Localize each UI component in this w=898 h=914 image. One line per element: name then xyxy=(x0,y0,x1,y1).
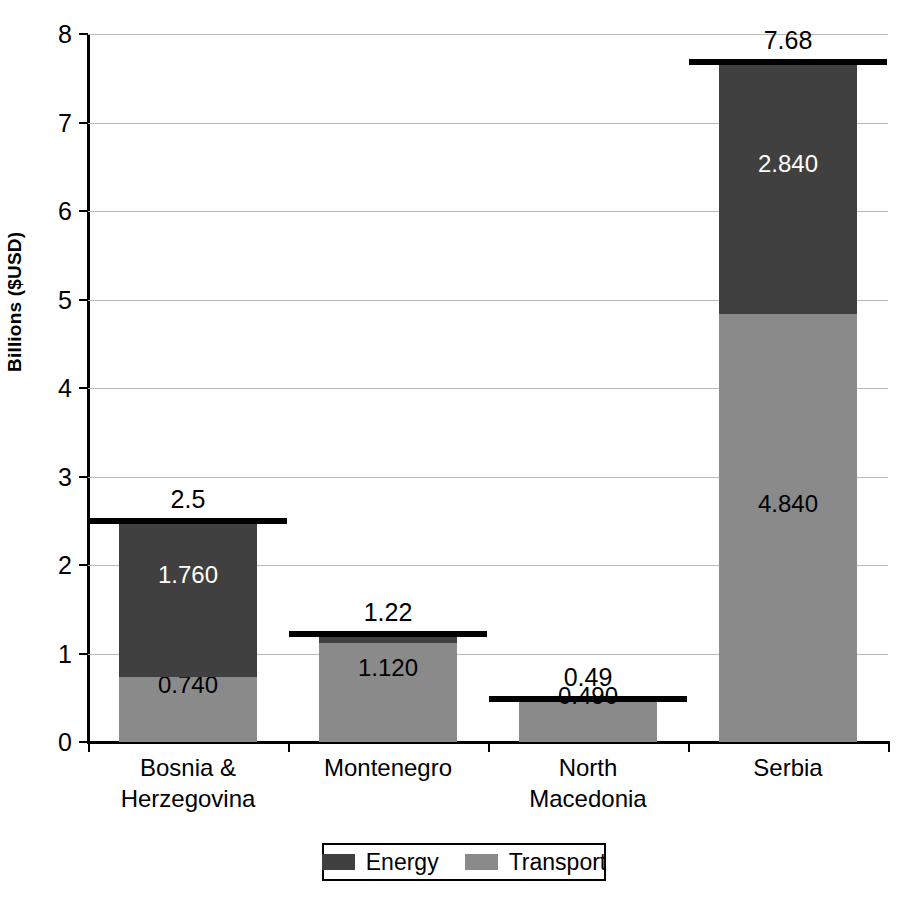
x-axis-category-label: Bosnia &Herzegovina xyxy=(88,752,288,814)
x-axis-label-line: Macedonia xyxy=(488,783,688,814)
y-axis-tick xyxy=(79,122,88,124)
y-axis-tick xyxy=(79,653,88,655)
chart-legend: Energy Transport xyxy=(322,843,606,881)
y-axis-tick xyxy=(79,33,88,35)
bar-segment-value-label: 4.840 xyxy=(719,492,857,516)
y-axis-tick-label: 3 xyxy=(58,464,72,489)
y-axis-title: Billions ($USD) xyxy=(4,232,26,372)
y-axis-tick-label: 7 xyxy=(58,110,72,135)
bar-total-cap-line xyxy=(89,518,287,524)
x-axis-label-line: Serbia xyxy=(688,752,888,783)
y-axis-tick xyxy=(79,210,88,212)
y-axis-tick xyxy=(79,564,88,566)
legend-item-energy: Energy xyxy=(322,851,439,874)
x-axis-label-line: Herzegovina xyxy=(88,783,288,814)
y-axis-tick xyxy=(79,476,88,478)
legend-label-transport: Transport xyxy=(509,851,607,874)
legend-swatch-energy xyxy=(322,854,355,870)
bar-segment-transport[interactable] xyxy=(719,314,857,742)
bar-group[interactable]: 0.490 xyxy=(519,34,657,742)
x-axis-label-line: North xyxy=(488,752,688,783)
bar-segment-value-label: 1.760 xyxy=(119,563,257,587)
bar-segment-energy[interactable] xyxy=(119,521,257,677)
bar-total-cap-line xyxy=(689,59,887,65)
y-axis-tick-label: 2 xyxy=(58,553,72,578)
bar-total-cap-line xyxy=(289,631,487,637)
x-axis-tick xyxy=(888,741,890,752)
bar-segment-value-label: 2.840 xyxy=(719,152,857,176)
bar-total-label: 7.68 xyxy=(719,28,857,53)
legend-item-transport: Transport xyxy=(465,851,607,874)
x-axis-category-label: Montenegro xyxy=(288,752,488,783)
bar-segment-value-label: 0.740 xyxy=(119,673,257,697)
y-axis-tick xyxy=(79,387,88,389)
plot-area: 0123456780.7401.7602.51.1201.220.4900.49… xyxy=(88,34,888,742)
y-axis-tick-label: 1 xyxy=(58,641,72,666)
legend-swatch-transport xyxy=(465,854,498,870)
bar-total-cap-line xyxy=(489,696,687,702)
x-axis-label-line: Montenegro xyxy=(288,752,488,783)
y-axis-tick-label: 4 xyxy=(58,376,72,401)
bar-segment-value-label: 1.120 xyxy=(319,656,457,680)
legend-label-energy: Energy xyxy=(366,851,439,874)
x-axis-tick xyxy=(88,741,90,752)
y-axis-tick-label: 5 xyxy=(58,287,72,312)
y-axis-tick-label: 6 xyxy=(58,199,72,224)
bar-total-label: 0.49 xyxy=(519,665,657,690)
bar-total-label: 2.5 xyxy=(119,487,257,512)
x-axis-tick xyxy=(288,741,290,752)
y-axis-tick-label: 8 xyxy=(58,22,72,47)
x-axis-tick xyxy=(688,741,690,752)
x-axis-category-label: Serbia xyxy=(688,752,888,783)
x-axis-label-line: Bosnia & xyxy=(88,752,288,783)
x-axis-category-label: NorthMacedonia xyxy=(488,752,688,814)
x-axis-tick xyxy=(488,741,490,752)
y-axis-tick xyxy=(79,299,88,301)
y-axis-tick xyxy=(79,741,88,743)
bar-group[interactable]: 0.7401.760 xyxy=(119,34,257,742)
bar-group[interactable]: 4.8402.840 xyxy=(719,34,857,742)
bar-segment-energy[interactable] xyxy=(719,62,857,313)
bar-total-label: 1.22 xyxy=(319,600,457,625)
stacked-bar-chart: Billions ($USD) 0123456780.7401.7602.51.… xyxy=(0,0,898,914)
y-axis-tick-label: 0 xyxy=(58,730,72,755)
